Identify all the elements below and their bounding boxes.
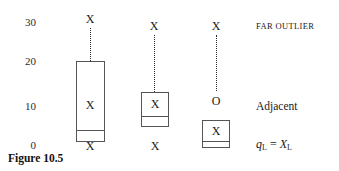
axis-tick-0: 0 (12, 140, 36, 151)
box-1-inner-marker: X (82, 99, 98, 111)
figure-caption: Figure 10.5 (8, 152, 63, 165)
axis-tick-30: 30 (12, 17, 36, 28)
box-1-far-outlier-marker: X (82, 13, 98, 25)
box-3-upper-whisker (216, 35, 217, 91)
formula-x-subscript: L (287, 143, 292, 152)
annotation-lower-quartile: qL = XL (256, 138, 292, 154)
box-2-inner-marker: X (147, 98, 163, 110)
box-3-far-outlier-marker: X (208, 20, 224, 32)
axis-tick-10: 10 (12, 101, 36, 112)
box-1-median-line (76, 130, 105, 131)
annotation-far-outlier: FAR OUTLIER (256, 20, 314, 32)
formula-x: X (280, 137, 287, 151)
box-2-far-outlier-marker: X (146, 20, 162, 32)
box-2-upper-whisker (154, 35, 155, 92)
formula-equals: = (267, 137, 280, 151)
box-1-upper-whisker (90, 28, 91, 61)
axis-tick-20: 20 (12, 56, 36, 67)
box-3-median-line (202, 141, 230, 142)
box-1-lower-marker: X (82, 140, 98, 152)
figure-10-5: 30 20 10 0 X X X X X X X O X FAR OUTLIER… (0, 0, 339, 171)
box-3-adjacent-marker: O (208, 95, 224, 107)
annotation-adjacent: Adjacent (256, 100, 298, 112)
box-2-median-line (141, 116, 169, 117)
box-3-inner-marker: X (208, 125, 224, 137)
box-2-lower-marker: X (147, 140, 163, 152)
